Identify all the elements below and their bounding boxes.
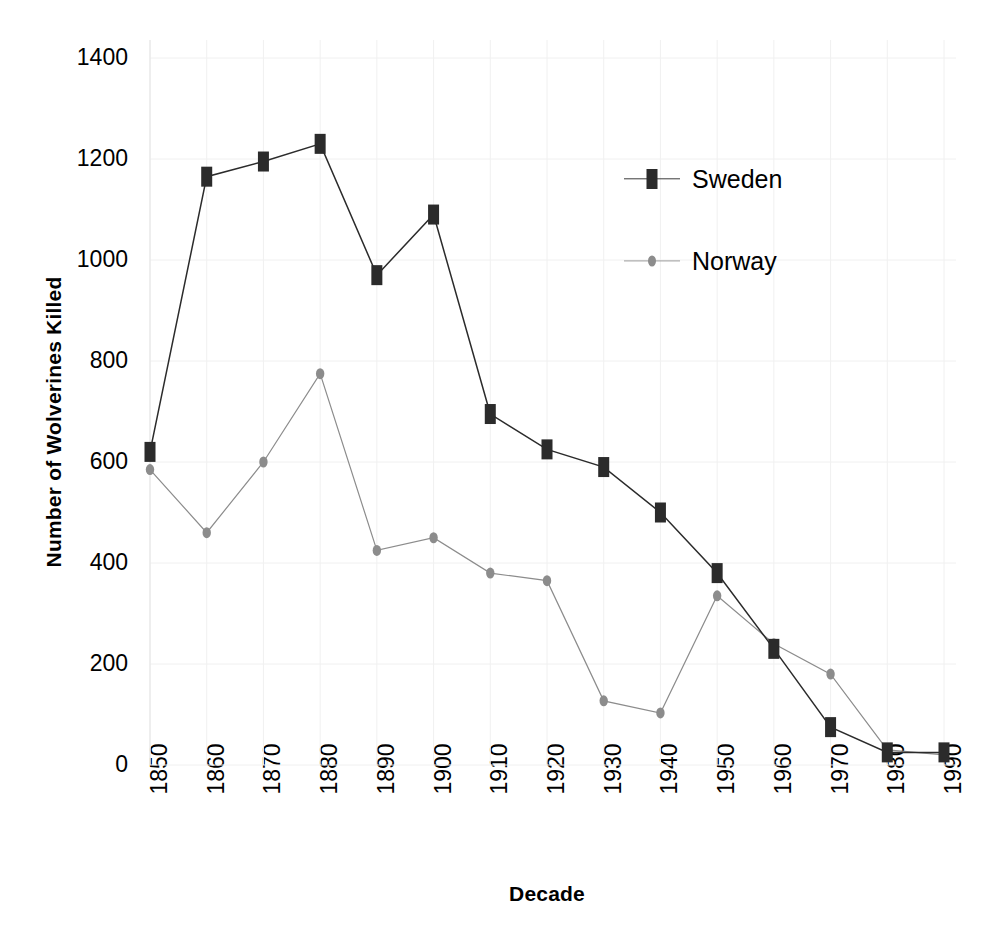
data-point-sweden <box>939 742 950 762</box>
legend-marker-square-icon <box>624 167 680 191</box>
data-point-sweden <box>768 639 779 659</box>
data-point-norway <box>373 545 381 556</box>
data-point-sweden <box>712 563 723 583</box>
data-point-sweden <box>145 442 156 462</box>
plot-area <box>0 0 1001 936</box>
legend-item-norway[interactable]: Norway <box>624 244 777 278</box>
data-point-norway <box>713 590 721 601</box>
data-point-norway <box>656 707 664 718</box>
legend-label-norway: Norway <box>692 247 777 276</box>
data-point-sweden <box>428 205 439 225</box>
data-point-sweden <box>542 439 553 459</box>
legend-marker-circle-icon <box>624 249 680 273</box>
data-point-norway <box>429 532 437 543</box>
data-point-sweden <box>315 134 326 154</box>
data-point-sweden <box>655 503 666 523</box>
data-point-sweden <box>598 457 609 477</box>
legend-item-sweden[interactable]: Sweden <box>624 162 782 196</box>
data-point-norway <box>826 669 834 680</box>
data-point-norway <box>259 457 267 468</box>
data-point-norway <box>203 527 211 538</box>
data-point-sweden <box>201 167 212 187</box>
data-point-norway <box>543 575 551 586</box>
data-point-sweden <box>371 265 382 285</box>
data-point-norway <box>486 568 494 579</box>
wolverines-killed-chart: Number of Wolverines Killed Decade 02004… <box>0 0 1001 936</box>
data-point-norway <box>316 368 324 379</box>
data-point-norway <box>146 464 154 475</box>
data-point-sweden <box>825 717 836 737</box>
data-point-norway <box>600 695 608 706</box>
legend: Sweden Norway <box>624 152 834 284</box>
data-point-sweden <box>258 152 269 172</box>
data-point-sweden <box>485 404 496 424</box>
data-point-sweden <box>882 742 893 762</box>
legend-label-sweden: Sweden <box>692 165 782 194</box>
